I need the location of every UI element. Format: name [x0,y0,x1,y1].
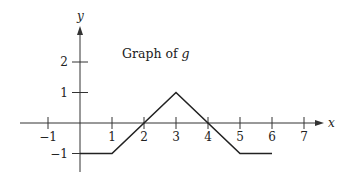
x-tick-label: 3 [172,130,180,144]
y-tick-label: −1 [50,147,68,161]
x-axis-arrow-icon [315,120,324,126]
x-tick-label: 7 [300,130,308,144]
x-tick-label: 1 [108,130,116,144]
y-tick-label: 1 [60,86,68,100]
graph-of-g-chart: −11234567−112 Graph of g y x [0,0,354,177]
chart-title: Graph of g [122,46,190,61]
tick-labels: −11234567−112 [39,55,308,161]
y-tick-label: 2 [60,55,68,69]
y-axis-arrow-icon [77,26,83,35]
y-axis-label: y [76,9,84,23]
x-tick-label: 4 [204,130,212,144]
x-axis-label: x [328,116,335,130]
x-tick-label: −1 [39,130,57,144]
x-tick-label: 6 [268,130,276,144]
x-tick-label: 2 [140,130,148,144]
x-tick-label: 5 [236,130,244,144]
